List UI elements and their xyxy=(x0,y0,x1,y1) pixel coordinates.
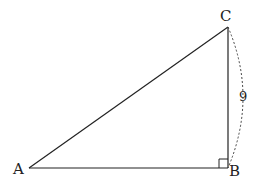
vertex-label-c: C xyxy=(220,7,231,25)
vertex-label-b: B xyxy=(229,162,240,180)
side-length-bc: 9 xyxy=(239,89,247,104)
triangle-ABC xyxy=(29,27,228,168)
vertex-label-a: A xyxy=(12,160,24,178)
right-angle-mark xyxy=(219,159,228,168)
triangle-diagram: A B C 9 xyxy=(0,0,261,182)
side-AC xyxy=(29,27,228,168)
